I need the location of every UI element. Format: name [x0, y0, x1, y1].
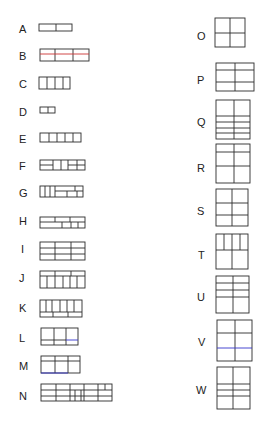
label-l: L	[19, 332, 25, 344]
label-d: D	[19, 106, 27, 118]
label-j: J	[19, 272, 25, 284]
label-n: N	[19, 390, 27, 402]
pattern-n	[41, 384, 113, 402]
label-k: K	[19, 302, 26, 314]
pattern-d	[40, 107, 56, 114]
pattern-h	[40, 217, 86, 229]
pattern-t	[216, 234, 249, 270]
label-i: I	[21, 243, 24, 255]
pattern-u	[216, 276, 250, 314]
label-o: O	[197, 30, 206, 42]
label-m: M	[19, 360, 28, 372]
pattern-m	[41, 356, 81, 374]
label-v: V	[198, 336, 205, 348]
pattern-a	[39, 24, 73, 32]
label-q: Q	[197, 116, 206, 128]
pattern-c	[39, 77, 71, 90]
label-u: U	[197, 291, 205, 303]
pattern-o	[215, 18, 246, 48]
label-a: A	[19, 23, 26, 35]
pattern-k	[40, 300, 83, 318]
label-h: H	[19, 215, 27, 227]
label-b: B	[19, 50, 26, 62]
label-e: E	[19, 133, 26, 145]
label-w: W	[196, 384, 206, 396]
pattern-l	[41, 328, 79, 346]
pattern-r	[216, 144, 251, 184]
pattern-b	[40, 49, 90, 62]
label-c: C	[19, 78, 27, 90]
label-s: S	[197, 205, 204, 217]
pattern-i	[40, 242, 86, 261]
pattern-j	[40, 271, 86, 289]
label-t: T	[198, 249, 205, 261]
pattern-f	[40, 160, 86, 171]
label-p: P	[197, 74, 204, 86]
label-f: F	[19, 160, 26, 172]
pattern-e	[40, 133, 82, 143]
label-r: R	[197, 162, 205, 174]
pattern-p	[216, 63, 255, 92]
pattern-s	[216, 189, 249, 227]
pattern-q	[216, 100, 251, 140]
pattern-g	[40, 186, 84, 198]
label-g: G	[19, 187, 28, 199]
pattern-w	[217, 367, 251, 410]
pattern-v	[217, 320, 253, 362]
